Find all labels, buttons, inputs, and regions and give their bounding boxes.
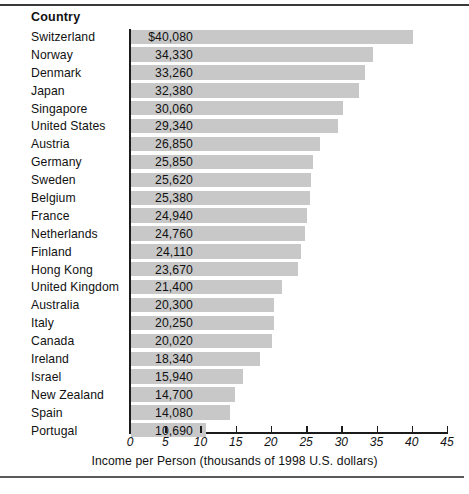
x-axis-tick bbox=[341, 426, 342, 433]
bar-value-label: 29,340 bbox=[131, 119, 193, 133]
country-label: Hong Kong bbox=[31, 263, 93, 277]
x-axis-tick-label: 45 bbox=[432, 435, 462, 449]
country-label: Spain bbox=[31, 406, 63, 420]
bar-rows: Switzerland$40,080Norway34,330Denmark33,… bbox=[0, 29, 469, 440]
x-axis-tick-label: 35 bbox=[362, 435, 392, 449]
income-per-person-bar-chart: Country Switzerland$40,080Norway34,330De… bbox=[0, 0, 469, 494]
country-label: Germany bbox=[31, 155, 82, 169]
country-label: France bbox=[31, 209, 70, 223]
bar-value-label: 14,700 bbox=[131, 388, 193, 402]
bar-row: Hong Kong23,670 bbox=[0, 262, 469, 280]
x-axis-tick bbox=[130, 426, 131, 433]
x-axis-tick bbox=[306, 426, 307, 433]
bar-value-label: 34,330 bbox=[131, 48, 193, 62]
country-label: Denmark bbox=[31, 66, 81, 80]
bar-value-label: 20,020 bbox=[131, 334, 193, 348]
bottom-divider bbox=[0, 476, 464, 478]
bar-row: Canada20,020 bbox=[0, 333, 469, 351]
bar-row: Spain14,080 bbox=[0, 405, 469, 423]
x-axis-tick-label: 40 bbox=[397, 435, 427, 449]
country-label: Japan bbox=[31, 84, 65, 98]
x-axis-tick-label: 25 bbox=[291, 435, 321, 449]
bar-value-label: 14,080 bbox=[131, 406, 193, 420]
country-label: Canada bbox=[31, 334, 74, 348]
bar-value-label: 24,110 bbox=[131, 245, 193, 259]
bar-row: France24,940 bbox=[0, 208, 469, 226]
country-label: Italy bbox=[31, 316, 54, 330]
x-axis-tick-label: 0 bbox=[115, 435, 145, 449]
country-label: Sweden bbox=[31, 173, 76, 187]
country-label: New Zealand bbox=[31, 388, 104, 402]
bar-row: Sweden25,620 bbox=[0, 172, 469, 190]
x-axis-caption: Income per Person (thousands of 1998 U.S… bbox=[0, 454, 469, 468]
bar-value-label: 23,670 bbox=[131, 263, 193, 277]
country-column-header: Country bbox=[31, 10, 80, 24]
country-label: Israel bbox=[31, 370, 61, 384]
bar-value-label: 25,620 bbox=[131, 173, 193, 187]
bar-row: Finland24,110 bbox=[0, 244, 469, 262]
bar-value-label: 20,250 bbox=[131, 316, 193, 330]
x-axis-tick-label: 30 bbox=[326, 435, 356, 449]
x-axis-tick bbox=[165, 426, 166, 433]
bar-value-label: 20,300 bbox=[131, 298, 193, 312]
x-axis-ticks bbox=[0, 426, 469, 434]
country-label: Australia bbox=[31, 298, 79, 312]
bar-row: Ireland18,340 bbox=[0, 351, 469, 369]
bar-value-label: 24,760 bbox=[131, 227, 193, 241]
bar-value-label: 30,060 bbox=[131, 102, 193, 116]
bar-value-label: 26,850 bbox=[131, 137, 193, 151]
bar-row: Singapore30,060 bbox=[0, 101, 469, 119]
bar-value-label: 33,260 bbox=[131, 66, 193, 80]
country-label: Switzerland bbox=[31, 30, 95, 44]
x-axis-tick-label: 5 bbox=[150, 435, 180, 449]
bar-value-label: 15,940 bbox=[131, 370, 193, 384]
country-label: Austria bbox=[31, 137, 70, 151]
x-axis-tick bbox=[412, 426, 413, 433]
bar-value-label: 18,340 bbox=[131, 352, 193, 366]
bar-row: Germany25,850 bbox=[0, 154, 469, 172]
bar-value-label: 24,940 bbox=[131, 209, 193, 223]
bar-row: Italy20,250 bbox=[0, 315, 469, 333]
bar-value-label: 21,400 bbox=[131, 280, 193, 294]
bar-row: United Kingdom21,400 bbox=[0, 279, 469, 297]
bar-row: United States29,340 bbox=[0, 118, 469, 136]
x-axis-tick-label: 20 bbox=[256, 435, 286, 449]
country-label: United States bbox=[31, 119, 105, 133]
bar-value-label: $40,080 bbox=[131, 30, 193, 44]
country-label: Finland bbox=[31, 245, 72, 259]
x-axis-tick-label: 15 bbox=[221, 435, 251, 449]
bar-value-label: 32,380 bbox=[131, 84, 193, 98]
bar-row: Netherlands24,760 bbox=[0, 226, 469, 244]
bar-row: Japan32,380 bbox=[0, 83, 469, 101]
x-axis-tick bbox=[236, 426, 237, 433]
bar-value-label: 25,380 bbox=[131, 191, 193, 205]
bar-row: Switzerland$40,080 bbox=[0, 29, 469, 47]
x-axis-tick-label: 10 bbox=[185, 435, 215, 449]
x-axis-tick-labels: 051015202530354045 bbox=[0, 435, 469, 451]
country-label: United Kingdom bbox=[31, 280, 119, 294]
country-label: Ireland bbox=[31, 352, 69, 366]
x-axis-tick bbox=[447, 426, 448, 433]
x-axis-tick bbox=[271, 426, 272, 433]
x-axis-tick bbox=[200, 426, 201, 433]
bar-row: Austria26,850 bbox=[0, 136, 469, 154]
bar-row: Australia20,300 bbox=[0, 297, 469, 315]
bar-row: Denmark33,260 bbox=[0, 65, 469, 83]
bar-row: New Zealand14,700 bbox=[0, 387, 469, 405]
country-label: Singapore bbox=[31, 102, 87, 116]
bar-row: Norway34,330 bbox=[0, 47, 469, 65]
x-axis-tick bbox=[377, 426, 378, 433]
bar-row: Israel15,940 bbox=[0, 369, 469, 387]
country-label: Norway bbox=[31, 48, 73, 62]
bar-row: Belgium25,380 bbox=[0, 190, 469, 208]
country-label: Belgium bbox=[31, 191, 76, 205]
bar-value-label: 25,850 bbox=[131, 155, 193, 169]
country-label: Netherlands bbox=[31, 227, 98, 241]
